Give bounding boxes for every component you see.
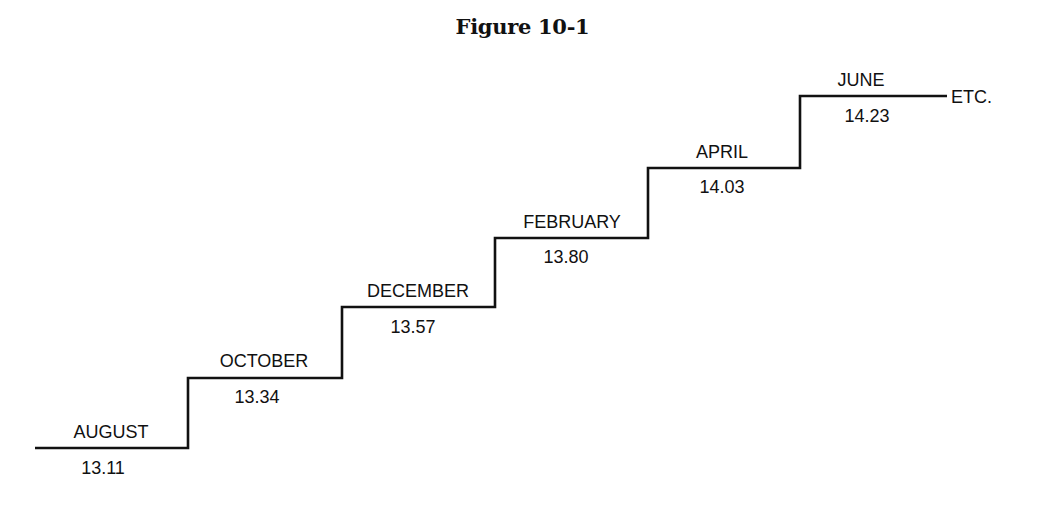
staircase-line [35,96,947,448]
staircase-diagram: AUGUST 13.11 OCTOBER 13.34 DECEMBER 13.5… [0,0,1045,507]
step-value-label: 13.11 [81,458,125,478]
step-value-label: 14.23 [844,106,889,126]
step-value-label: 13.57 [390,317,435,337]
step-month-label: AUGUST [73,422,148,442]
step-month-label: JUNE [837,70,884,90]
step-value-label: 13.34 [234,387,279,407]
step-month-label: APRIL [696,142,748,162]
step-month-label: DECEMBER [367,281,469,301]
continuation-label: ETC. [951,87,992,107]
step-month-label: FEBRUARY [523,212,621,232]
step-value-label: 13.80 [543,247,588,267]
step-month-label: OCTOBER [220,351,309,371]
step-value-label: 14.03 [699,177,744,197]
